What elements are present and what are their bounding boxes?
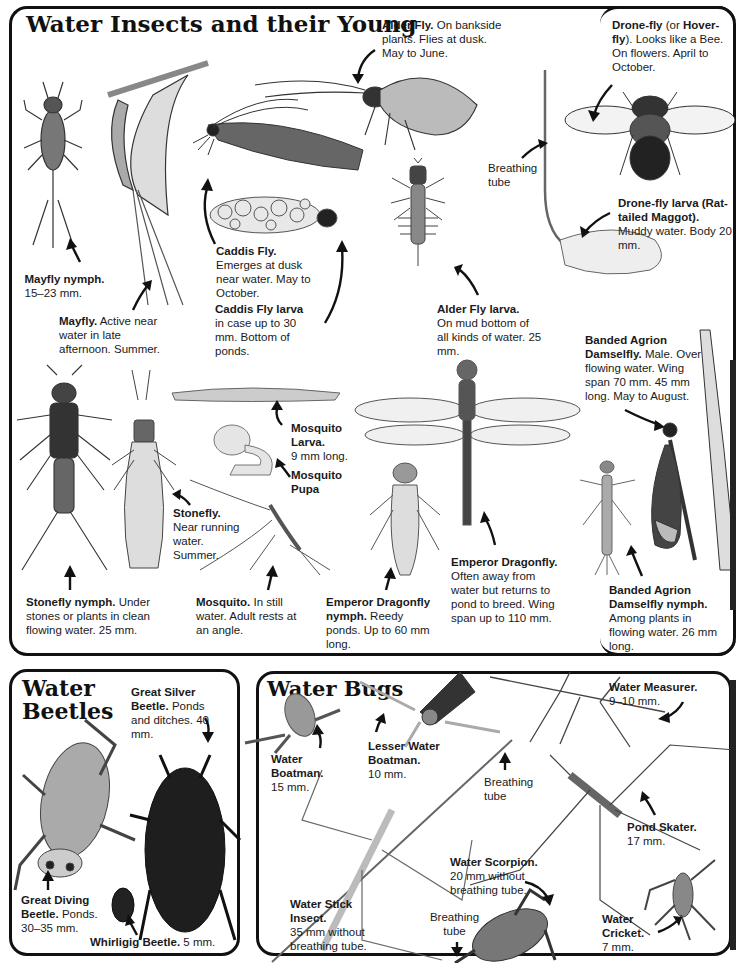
- page-edge: [730, 360, 736, 610]
- page-edge-lower: [730, 680, 736, 950]
- pointer-arrows-bugs: [250, 660, 736, 963]
- pointer-arrows-beetles: [0, 660, 250, 960]
- pointer-arrows-insects: [0, 0, 736, 660]
